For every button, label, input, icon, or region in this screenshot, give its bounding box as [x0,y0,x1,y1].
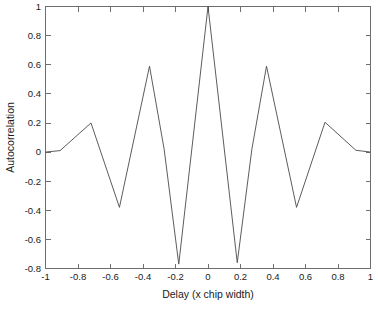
x-tick-label: 0.6 [299,271,312,282]
autocorrelation-plot: -1 -0.8 -0.6 -0.4 -0.2 0 0.2 0.4 0.6 0.8… [0,0,378,310]
y-tick-label: 0.6 [28,59,41,70]
y-tick-label: -0.6 [25,234,41,245]
y-tick-label: -0.2 [25,176,41,187]
figure-background [0,0,378,310]
x-tick-label: -0.2 [167,271,183,282]
chart-figure: -1 -0.8 -0.6 -0.4 -0.2 0 0.2 0.4 0.6 0.8… [0,0,378,310]
y-tick-label: 0.4 [28,88,41,99]
y-tick-label: 0.8 [28,30,41,41]
x-tick-label: 0.8 [331,271,344,282]
x-tick-label: 0.2 [234,271,247,282]
x-tick-label: -0.6 [102,271,118,282]
x-axis-title: Delay (x chip width) [162,288,254,300]
y-tick-label: -0.8 [25,263,41,274]
x-tick-label: 1 [368,271,373,282]
y-axis-title: Autocorrelation [4,102,16,173]
x-tick-label: 0 [205,271,210,282]
y-tick-label: 0 [36,146,41,157]
x-tick-label: -0.4 [135,271,151,282]
y-tick-label: 0.2 [28,117,41,128]
x-tick-label: -1 [41,271,49,282]
y-tick-label: -0.4 [25,205,41,216]
y-tick-label: 1 [36,1,41,12]
x-tick-label: -0.8 [70,271,86,282]
x-tick-label: 0.4 [266,271,279,282]
